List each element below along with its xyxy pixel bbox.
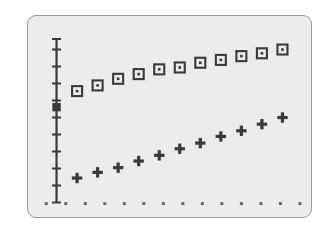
marker-square-center-dot [261, 52, 264, 55]
figure-root [0, 0, 331, 234]
marker-dot [45, 202, 48, 205]
marker-plus-vertical [137, 156, 140, 166]
marker-plus-vertical [96, 167, 99, 177]
marker-square-center-dot [281, 48, 284, 51]
marker-plus [257, 119, 267, 129]
plot-panel [27, 15, 312, 218]
marker-plus [133, 156, 143, 166]
marker-square-center-dot [220, 59, 223, 62]
marker-square-center-dot [96, 84, 99, 87]
marker-plus [72, 173, 82, 183]
marker-plus-vertical [281, 112, 284, 122]
marker-dot [279, 202, 282, 205]
marker-plus [277, 112, 287, 122]
scatter-chart [28, 16, 312, 218]
marker-square [277, 45, 287, 55]
marker-plus-vertical [158, 150, 161, 160]
marker-dot [201, 202, 204, 205]
marker-plus [216, 131, 226, 141]
marker-plus [92, 167, 102, 177]
marker-plus-vertical [75, 173, 78, 183]
marker-plus [195, 138, 205, 148]
marker-dot [103, 202, 106, 205]
marker-dot [240, 202, 243, 205]
marker-plus [113, 162, 123, 172]
marker-plus-vertical [219, 131, 222, 141]
marker-square [154, 64, 164, 74]
marker-square [93, 80, 103, 90]
marker-dot [220, 202, 223, 205]
marker-dot [298, 202, 301, 205]
marker-square-center-dot [137, 73, 140, 76]
marker-square-center-dot [117, 78, 120, 81]
marker-square [72, 86, 82, 96]
marker-dot [162, 202, 165, 205]
y-axis-filled-square-marker [52, 103, 60, 111]
marker-dot [84, 202, 87, 205]
marker-square-center-dot [240, 55, 243, 58]
series-squares [72, 45, 287, 97]
marker-dot [259, 202, 262, 205]
marker-square [134, 69, 144, 79]
marker-square [257, 48, 267, 58]
marker-square [113, 74, 123, 84]
marker-square [175, 62, 185, 72]
marker-dot [181, 202, 184, 205]
marker-plus-vertical [178, 144, 181, 154]
marker-plus [175, 144, 185, 154]
series-pluses [72, 112, 288, 183]
marker-square [216, 55, 226, 65]
marker-square-center-dot [178, 66, 181, 69]
marker-plus [154, 150, 164, 160]
series-baseline-dots [45, 202, 302, 205]
marker-dot [123, 202, 126, 205]
marker-plus-vertical [199, 138, 202, 148]
marker-plus [236, 126, 246, 136]
marker-plus-vertical [240, 126, 243, 136]
marker-square-center-dot [199, 61, 202, 64]
marker-square-center-dot [158, 68, 161, 71]
marker-plus-vertical [117, 162, 120, 172]
marker-square-center-dot [76, 90, 79, 93]
marker-square [236, 51, 246, 61]
marker-dot [64, 202, 67, 205]
plot-area [28, 16, 311, 217]
marker-plus-vertical [260, 119, 263, 129]
marker-square [195, 58, 205, 68]
marker-dot [142, 202, 145, 205]
